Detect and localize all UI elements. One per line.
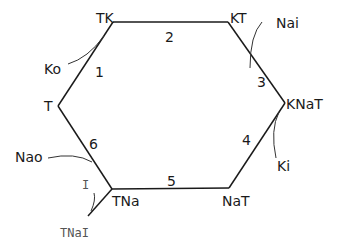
ligand-label-nai: Nai — [276, 15, 299, 31]
nao-binding-curve — [48, 156, 92, 162]
edge-4 — [229, 103, 285, 188]
transition-number-5: 5 — [167, 173, 176, 189]
ko-binding-curve — [68, 36, 104, 64]
state-label-tna: TNa — [111, 193, 140, 209]
ligand-label-inhibitor: I — [82, 178, 89, 192]
state-label-t: T — [43, 98, 53, 114]
transition-number-4: 4 — [242, 132, 251, 148]
edge-1 — [58, 22, 113, 106]
transition-number-6: 6 — [89, 136, 98, 152]
edge-inhibitor — [88, 189, 112, 216]
state-label-nat: NaT — [222, 193, 250, 209]
edge-3 — [228, 22, 285, 103]
state-label-tnai: TNaI — [60, 226, 89, 240]
transition-number-2: 2 — [165, 29, 174, 45]
transition-number-1: 1 — [95, 64, 104, 80]
transition-number-3: 3 — [257, 74, 266, 90]
ligand-label-ko: Ko — [44, 61, 61, 77]
ligand-label-nao: Nao — [15, 149, 43, 165]
ligand-label-ki: Ki — [277, 158, 290, 174]
state-label-kt: KT — [230, 10, 247, 26]
state-label-tk: TK — [95, 10, 115, 26]
transport-cycle-diagram: TK KT KNaT NaT TNa T TNaI 1 2 3 4 5 6 Ko… — [0, 0, 339, 249]
edge-6 — [58, 106, 112, 189]
state-label-knat: KNaT — [286, 96, 323, 112]
